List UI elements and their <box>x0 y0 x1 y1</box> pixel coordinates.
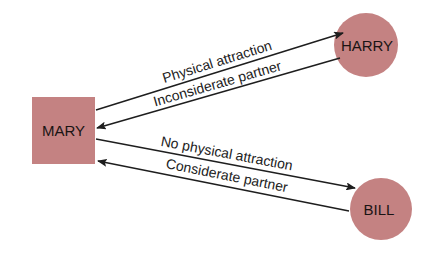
node-bill: BILL <box>350 178 412 240</box>
node-harry: HARRY <box>334 13 398 77</box>
arrow-line <box>96 33 343 110</box>
harry-label: HARRY <box>341 37 393 54</box>
bill-label: BILL <box>364 201 395 218</box>
relationship-diagram: MARY HARRY BILL Physical attraction Inco… <box>0 0 428 258</box>
edge-mary-to-harry: Physical attraction <box>96 33 343 110</box>
node-mary: MARY <box>32 97 95 164</box>
mary-label: MARY <box>42 122 85 139</box>
